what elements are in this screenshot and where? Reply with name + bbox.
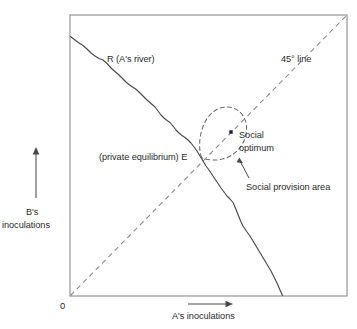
inoculation-externality-figure: R (A's river) 45° line (private equilibr… bbox=[0, 0, 357, 329]
origin-label: 0 bbox=[60, 300, 65, 311]
y-axis-label-line2: inoculations bbox=[2, 220, 50, 230]
y-axis-arrow-head bbox=[33, 147, 40, 155]
x-axis-arrow-head bbox=[226, 301, 234, 307]
private-equilibrium-label: (private equilibrium) E bbox=[99, 152, 187, 162]
diagram-canvas: R (A's river) 45° line (private equilibr… bbox=[0, 0, 357, 329]
social-optimum-point bbox=[229, 130, 232, 133]
y-axis-label-line1: B's bbox=[26, 207, 39, 217]
social-optimum-label-line1: Social bbox=[239, 130, 264, 140]
forty-five-degree-label: 45° line bbox=[281, 54, 311, 64]
social-provision-area-label: Social provision area bbox=[246, 182, 331, 192]
river-label: R (A's river) bbox=[107, 54, 155, 64]
x-axis-label: A's inoculations bbox=[172, 311, 235, 321]
social-optimum-label-line2: optimum bbox=[239, 143, 274, 153]
